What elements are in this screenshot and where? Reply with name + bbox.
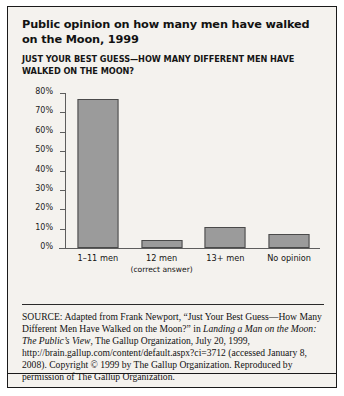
x-label-text: 1–11 men bbox=[78, 253, 119, 263]
figure-subtitle: JUST YOUR BEST GUESS—HOW MANY DIFFERENT … bbox=[22, 54, 318, 77]
y-tick-50: 50% bbox=[60, 151, 65, 152]
x-axis-label: No opinion bbox=[257, 253, 321, 264]
y-tick-label: 50% bbox=[35, 145, 53, 154]
bar-slot bbox=[257, 93, 321, 248]
y-tick-20: 20% bbox=[60, 209, 65, 210]
y-tick-label: 70% bbox=[35, 106, 53, 115]
x-label-text: 12 men bbox=[146, 253, 177, 263]
bottom-divider bbox=[8, 373, 337, 374]
y-tick-80: 80% bbox=[60, 93, 65, 94]
y-tick-0: 0% bbox=[60, 248, 65, 249]
bar-no-opinion[interactable] bbox=[269, 234, 310, 248]
x-axis-labels: 1–11 men12 men(correct answer)13+ menNo … bbox=[66, 253, 321, 293]
bar-slot bbox=[130, 93, 194, 248]
y-tick-70: 70% bbox=[60, 112, 65, 113]
x-axis-label: 13+ men bbox=[194, 253, 258, 264]
y-tick-label: 0% bbox=[40, 242, 53, 251]
plot-area: 0%10%20%30%40%50%60%70%80% bbox=[65, 93, 320, 248]
y-tick-30: 30% bbox=[60, 190, 65, 191]
y-tick-label: 60% bbox=[35, 126, 53, 135]
figure-title: Public opinion on how many men have walk… bbox=[22, 18, 312, 47]
y-tick-label: 40% bbox=[35, 165, 53, 174]
bar-13-men[interactable] bbox=[205, 227, 246, 248]
bar-slot bbox=[194, 93, 258, 248]
y-tick-40: 40% bbox=[60, 171, 65, 172]
bars-layer bbox=[66, 93, 320, 248]
y-tick-label: 10% bbox=[35, 223, 53, 232]
y-tick-label: 20% bbox=[35, 203, 53, 212]
x-label-text: No opinion bbox=[267, 253, 311, 263]
source-label: SOURCE: bbox=[22, 311, 63, 322]
x-label-text: 13+ men bbox=[206, 253, 244, 263]
x-axis-label: 1–11 men bbox=[66, 253, 130, 264]
bar-slot bbox=[66, 93, 130, 248]
y-tick-10: 10% bbox=[60, 229, 65, 230]
source-divider bbox=[22, 304, 324, 305]
x-axis-line bbox=[59, 248, 320, 249]
x-label-sublabel: (correct answer) bbox=[130, 265, 194, 276]
bar-12-men[interactable] bbox=[141, 240, 182, 248]
y-tick-label: 30% bbox=[35, 184, 53, 193]
x-axis-label: 12 men(correct answer) bbox=[130, 253, 194, 275]
bar-1-11-men[interactable] bbox=[77, 99, 118, 248]
y-tick-label: 80% bbox=[35, 87, 53, 96]
bar-chart: 0%10%20%30%40%50%60%70%80% 1–11 men12 me… bbox=[22, 85, 324, 300]
y-tick-60: 60% bbox=[60, 132, 65, 133]
figure-frame: Public opinion on how many men have walk… bbox=[7, 6, 337, 388]
